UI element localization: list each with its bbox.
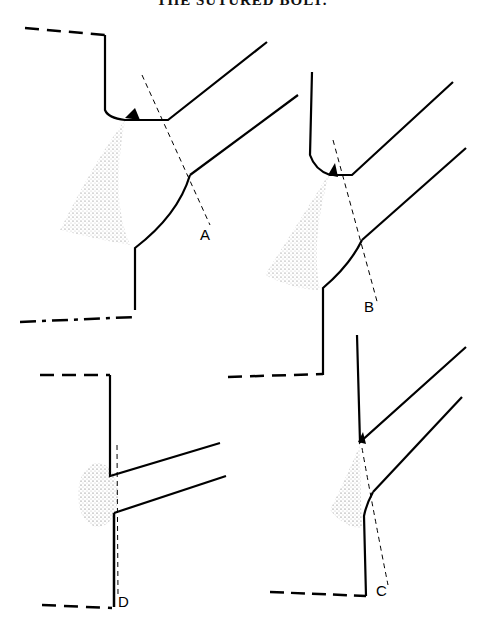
label-c: C: [376, 582, 387, 599]
label-a: A: [200, 226, 210, 243]
figure-b: B: [228, 72, 466, 377]
label-b: B: [364, 298, 374, 315]
figure-a: A: [20, 28, 298, 322]
figure-d: D: [40, 375, 226, 610]
diagram-canvas: A B D C: [0, 0, 484, 629]
label-d: D: [118, 593, 129, 610]
